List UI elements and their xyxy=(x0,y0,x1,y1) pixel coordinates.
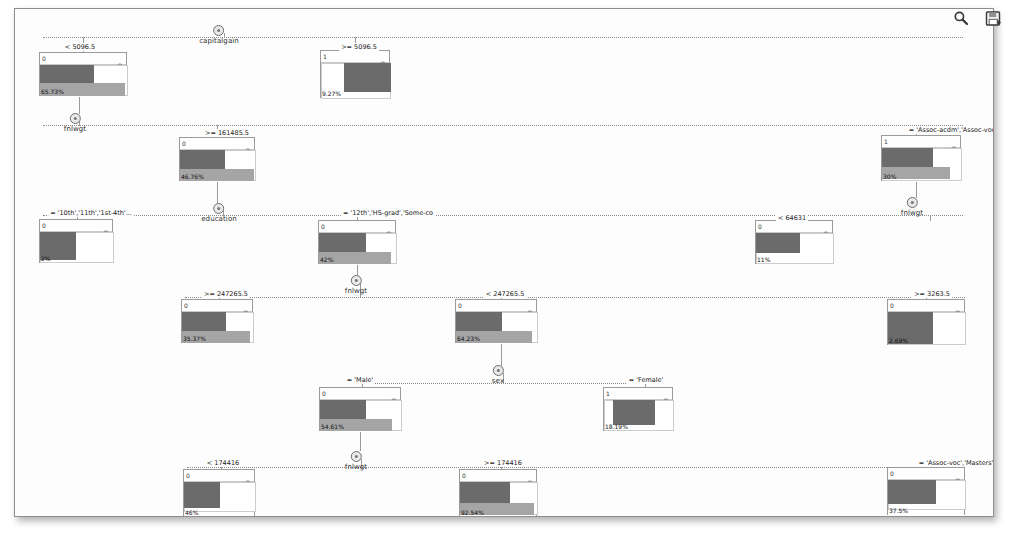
tree-canvas-frame[interactable]: capitalgainfnlwgteducationfnlwgtsexfnlwg… xyxy=(14,8,994,517)
node-header: 0 xyxy=(756,221,832,233)
node-histogram: 46.76% xyxy=(180,150,254,182)
node-zoom-icon[interactable] xyxy=(391,390,398,397)
split-knob-icon[interactable] xyxy=(350,451,361,462)
histogram-bar xyxy=(319,233,366,252)
tree-leaf-node[interactable]: 118.19% xyxy=(603,387,673,431)
decision-tree-app: capitalgainfnlwgteducationfnlwgtsexfnlwg… xyxy=(0,0,1009,535)
node-zoom-icon[interactable] xyxy=(380,53,387,60)
node-header: 1 xyxy=(321,51,389,63)
node-histogram: 65.73% xyxy=(40,65,126,97)
node-percentage-label: 37.5% xyxy=(889,507,908,515)
branch-condition-label: >= 247265.5 xyxy=(202,290,250,298)
node-header: 0 xyxy=(182,300,252,312)
split-node-fnlwgt[interactable]: fnlwgt xyxy=(901,197,923,217)
node-id-label: 0 xyxy=(182,138,186,149)
histogram-bar xyxy=(613,400,655,425)
node-zoom-icon[interactable] xyxy=(823,223,830,230)
histogram-bar xyxy=(180,150,225,169)
node-zoom-icon[interactable] xyxy=(245,140,252,147)
split-node-capitalgain[interactable]: capitalgain xyxy=(199,25,239,45)
node-id-label: 0 xyxy=(184,300,188,311)
branch-condition-label: = 'Female' xyxy=(627,376,666,384)
node-zoom-icon[interactable] xyxy=(527,472,534,479)
split-node-fnlwgt[interactable]: fnlwgt xyxy=(345,451,367,471)
node-histogram: 46% xyxy=(184,482,254,517)
node-zoom-icon[interactable] xyxy=(386,223,393,230)
split-node-sex[interactable]: sex xyxy=(492,365,504,385)
tree-leaf-node[interactable]: 065.73% xyxy=(39,52,127,96)
tree-leaf-node[interactable]: 046.76% xyxy=(179,137,255,181)
node-zoom-icon[interactable] xyxy=(245,472,252,479)
node-histogram: 2% xyxy=(40,232,112,264)
node-zoom-icon[interactable] xyxy=(527,302,534,309)
node-zoom-icon[interactable] xyxy=(663,390,670,397)
node-header: 0 xyxy=(888,468,964,480)
node-zoom-icon[interactable] xyxy=(955,302,962,309)
histogram-bar xyxy=(182,312,226,331)
node-header: 1 xyxy=(882,136,960,148)
tree-leaf-node[interactable]: 02.69% xyxy=(887,299,965,345)
tree-leaf-node[interactable]: 035.37% xyxy=(181,299,253,343)
tree-leaf-node[interactable]: 130% xyxy=(881,135,961,181)
histogram-bar xyxy=(344,63,391,92)
split-knob-icon[interactable] xyxy=(213,203,224,214)
histogram-bar xyxy=(460,482,510,503)
split-variable-label: fnlwgt xyxy=(345,463,367,471)
branch-condition-label: = '12th','HS-grad','Some-co xyxy=(341,209,435,217)
node-histogram: 30% xyxy=(882,148,960,182)
split-knob-icon[interactable] xyxy=(69,113,80,124)
node-zoom-icon[interactable] xyxy=(103,222,110,229)
tree-edge-vertical xyxy=(930,215,931,221)
tree-edge-vertical xyxy=(360,431,361,451)
node-histogram: 9.27% xyxy=(321,63,389,99)
node-zoom-icon[interactable] xyxy=(955,470,962,477)
split-variable-label: fnlwgt xyxy=(901,209,923,217)
split-knob-icon[interactable] xyxy=(906,197,917,208)
split-node-education[interactable]: education xyxy=(201,203,237,223)
split-knob-icon[interactable] xyxy=(213,25,224,36)
node-percentage-label: 65.73% xyxy=(41,88,64,96)
split-knob-icon[interactable] xyxy=(493,365,504,376)
tree-leaf-node[interactable]: 054.61% xyxy=(319,387,401,431)
node-zoom-icon[interactable] xyxy=(243,302,250,309)
tree-edge-vertical xyxy=(501,343,502,366)
split-variable-label: fnlwgt xyxy=(345,287,367,295)
tree-leaf-node[interactable]: 02% xyxy=(39,219,113,263)
node-zoom-icon[interactable] xyxy=(951,138,958,145)
branch-condition-label: = 'Male' xyxy=(345,376,375,384)
node-percentage-label: 30% xyxy=(883,173,896,181)
tree-leaf-node[interactable]: 042% xyxy=(318,220,396,264)
split-knob-icon[interactable] xyxy=(350,275,361,286)
node-percentage-label: 92.54% xyxy=(461,509,484,517)
tree-leaf-node[interactable]: 046% xyxy=(183,469,255,517)
tree-leaf-node[interactable]: 064.23% xyxy=(455,299,537,343)
node-id-label: 0 xyxy=(758,221,762,232)
node-id-label: 0 xyxy=(890,468,894,479)
tree-leaf-node[interactable]: 011% xyxy=(755,220,833,264)
node-histogram: 18.19% xyxy=(604,400,672,432)
split-node-fnlwgt[interactable]: fnlwgt xyxy=(64,113,86,133)
node-id-label: 1 xyxy=(884,136,888,147)
tree-leaf-node[interactable]: 092.54% xyxy=(459,469,537,517)
node-percentage-label: 46% xyxy=(185,509,198,517)
tree-edge-vertical xyxy=(79,96,80,114)
node-id-label: 0 xyxy=(321,221,325,232)
node-id-label: 1 xyxy=(606,388,610,399)
tree-canvas[interactable]: capitalgainfnlwgteducationfnlwgtsexfnlwg… xyxy=(15,9,993,516)
branch-condition-label: >= 161485.5 xyxy=(203,129,251,137)
histogram-bar xyxy=(456,312,502,331)
tree-leaf-node[interactable]: 037.5% xyxy=(887,467,965,515)
zoom-icon[interactable] xyxy=(951,8,971,28)
node-id-label: 0 xyxy=(462,470,466,481)
node-zoom-icon[interactable] xyxy=(117,55,124,62)
split-variable-label: fnlwgt xyxy=(64,125,86,133)
node-histogram: 92.54% xyxy=(460,482,536,517)
save-icon[interactable] xyxy=(983,8,1003,28)
split-node-fnlwgt[interactable]: fnlwgt xyxy=(345,275,367,295)
node-percentage-label: 11% xyxy=(757,256,770,264)
tree-leaf-node[interactable]: 19.27% xyxy=(320,50,390,98)
node-header: 0 xyxy=(888,300,964,312)
node-id-label: 0 xyxy=(322,388,326,399)
branch-condition-label: >= 3263.5 xyxy=(912,290,952,298)
split-variable-label: education xyxy=(201,215,237,223)
